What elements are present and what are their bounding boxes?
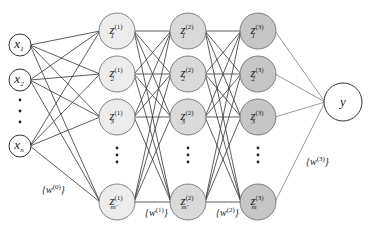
hidden-node-l2-2 <box>170 56 206 92</box>
ellipsis-dot <box>116 161 119 164</box>
edge <box>30 31 100 146</box>
hidden-node-l1-3 <box>99 99 135 135</box>
edge <box>275 102 325 117</box>
hidden-node-l2-1 <box>170 13 206 49</box>
edge <box>30 74 100 146</box>
hidden-node-l1-2 <box>99 56 135 92</box>
hidden-node-l2-3 <box>170 99 206 135</box>
hidden-node-l3-3 <box>240 99 276 135</box>
edge <box>275 31 325 102</box>
weight-label-w2: {w(2)} <box>216 206 239 218</box>
weight-label-w3: {w(3)} <box>306 155 329 167</box>
ellipsis-dot <box>187 154 190 157</box>
ellipsis-dot <box>19 121 22 124</box>
hidden-node-l1-1 <box>99 13 135 49</box>
hidden-node-l1-m' <box>99 184 135 220</box>
ellipsis-dot <box>116 147 119 150</box>
ellipsis-dot <box>19 99 22 102</box>
hidden-node-l3-m <box>240 184 276 220</box>
edge <box>275 74 325 102</box>
hidden-node-l2-m' <box>170 184 206 220</box>
ellipsis-dot <box>19 110 22 113</box>
ellipsis-dot <box>187 147 190 150</box>
neural-network-diagram: x1x2xnz(1)1z(1)2z(1)3z(1)m'z(2)1z(2)2z(2… <box>0 0 381 231</box>
hidden-node-l3-1 <box>240 13 276 49</box>
ellipsis-dot <box>257 161 260 164</box>
ellipsis-dot <box>257 147 260 150</box>
ellipsis-dot <box>257 154 260 157</box>
weight-label-w0: {w(0)} <box>42 183 65 195</box>
edge <box>30 146 100 202</box>
edge <box>30 45 100 74</box>
edge <box>275 102 325 202</box>
ellipsis-dot <box>187 161 190 164</box>
node-label: y <box>338 94 346 109</box>
ellipsis-dot <box>116 154 119 157</box>
edge <box>30 45 100 202</box>
hidden-node-l3-2 <box>240 56 276 92</box>
weight-label-w1: {w(1)} <box>145 206 168 218</box>
edge <box>30 74 100 80</box>
